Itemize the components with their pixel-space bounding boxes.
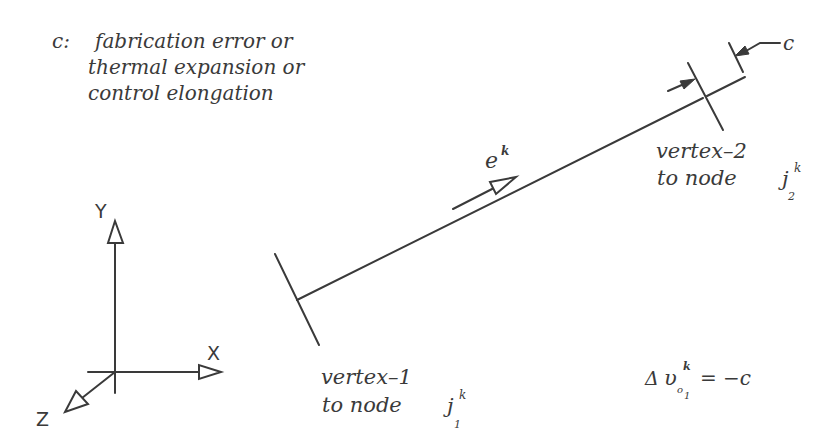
vertex-2-line-2: to node — [657, 166, 737, 190]
direction-vector: e k — [453, 144, 516, 209]
coordinate-axes: Y X Z — [36, 200, 221, 430]
diagram-svg: c: fabrication error or thermal expansio… — [0, 0, 839, 448]
x-axis-label: X — [207, 342, 220, 364]
z-axis-label: Z — [36, 408, 49, 430]
z-axis-arrowhead-icon — [65, 391, 88, 412]
direction-label: e — [485, 148, 498, 173]
vertex-1-node-sup: k — [459, 388, 466, 402]
direction-label-sup: k — [501, 144, 509, 158]
member-line — [297, 98, 703, 300]
y-axis-label: Y — [94, 200, 107, 222]
diagram-canvas: c: fabrication error or thermal expansio… — [0, 0, 839, 448]
description-line-2: thermal expansion or — [88, 55, 306, 79]
y-axis-arrowhead-icon — [108, 221, 123, 243]
equation-symbol: υ — [664, 366, 677, 390]
direction-arrowhead-icon — [490, 177, 516, 194]
vertex-2-tick — [688, 63, 723, 130]
vertex-1-node-sub: 1 — [454, 418, 461, 431]
dimension-arrowhead-right-icon — [735, 46, 749, 56]
x-axis-arrowhead-icon — [199, 365, 221, 379]
equation-sup: k — [683, 360, 691, 373]
equation-rhs: = −c — [700, 366, 751, 390]
vertex-2-node-sub: 2 — [787, 190, 795, 203]
equation-sub-index: 1 — [684, 390, 690, 401]
gap-label: c — [783, 31, 794, 55]
description-block: c: fabrication error or thermal expansio… — [52, 29, 306, 105]
z-axis-line — [82, 372, 115, 398]
elongation-end-tick — [729, 43, 743, 72]
vertex-1-node-symbol: j — [443, 394, 454, 418]
dimension-leader-line — [746, 43, 780, 51]
vertex-1-line-1: vertex–1 — [321, 365, 412, 389]
elongation-dimension: c — [668, 31, 794, 91]
equation-delta: Δ — [644, 367, 659, 389]
vertex-1-line-2: to node — [322, 393, 402, 417]
vertex-1-label: vertex–1 to node j k 1 — [321, 365, 466, 431]
vertex-2-line-1: vertex–2 — [656, 139, 747, 163]
description-line-3: control elongation — [88, 81, 274, 105]
vertex-2-label: vertex–2 to node j k 2 — [656, 139, 801, 203]
description-line-1: fabrication error or — [93, 29, 294, 53]
vertex-2-node-sup: k — [794, 161, 801, 175]
vertex-2-node-symbol: j — [778, 167, 789, 191]
equation-sub-base: o — [677, 384, 683, 395]
description-prefix: c: — [52, 29, 70, 53]
elongation-equation: Δ υ k o 1 = −c — [644, 360, 751, 401]
dimension-arrowhead-left-icon — [680, 79, 695, 89]
member-extension-line — [707, 77, 745, 96]
